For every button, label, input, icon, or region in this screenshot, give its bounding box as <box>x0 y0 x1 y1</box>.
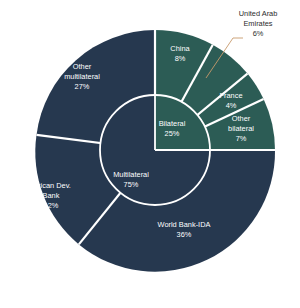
label-african-dev-bank-line1: African Dev. <box>31 181 71 190</box>
label-other-bilateral-line2: bilateral <box>228 124 254 133</box>
label-bilateral-value: 25% <box>165 129 180 138</box>
label-other-bilateral-value: 7% <box>236 134 247 143</box>
label-other-bilateral-line1: Other <box>232 114 251 123</box>
nested-donut-chart: China 8% France 4% Other bilateral 7% Bi… <box>0 0 300 308</box>
label-other-multilateral-line1: Other <box>73 62 92 71</box>
label-uae-line2: Emirates <box>243 19 272 28</box>
label-china-value: 8% <box>175 54 186 63</box>
label-multilateral-name: Multilateral <box>113 170 149 179</box>
label-world-bank-ida-value: 36% <box>177 230 192 239</box>
label-world-bank-ida-name: World Bank-IDA <box>158 220 211 229</box>
label-african-dev-bank-line2: Bank <box>43 191 60 200</box>
label-bilateral-name: Bilateral <box>159 119 186 128</box>
label-france-value: 4% <box>226 101 237 110</box>
label-uae-value: 6% <box>253 29 264 38</box>
chart-container: China 8% France 4% Other bilateral 7% Bi… <box>0 0 300 308</box>
label-china-name: China <box>170 44 190 53</box>
label-france-name: France <box>219 91 242 100</box>
label-other-multilateral-line2: multilateral <box>64 72 100 81</box>
label-multilateral-value: 75% <box>124 180 139 189</box>
label-uae-line1: United Arab <box>239 9 278 18</box>
label-other-multilateral-value: 27% <box>75 82 90 91</box>
label-african-dev-bank-value: 12% <box>44 201 59 210</box>
